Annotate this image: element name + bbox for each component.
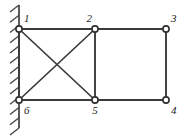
node-label-4: 4 (171, 104, 177, 116)
support-hatch-mark (10, 36, 19, 43)
support-hatch-mark (10, 77, 19, 84)
node-group (16, 26, 169, 103)
frame-canvas: 123456 (0, 0, 191, 140)
node-label-6: 6 (24, 104, 30, 116)
support-hatch-mark (10, 87, 19, 94)
support-hatch-mark (10, 118, 19, 125)
node-3 (163, 26, 169, 32)
node-label-3: 3 (170, 12, 177, 24)
support-hatch-mark (10, 67, 19, 74)
support-hatch-mark (10, 108, 19, 115)
left-wall-support (10, 5, 19, 135)
node-label-5: 5 (92, 104, 98, 116)
member-group (19, 29, 166, 100)
support-hatch-mark (10, 15, 19, 22)
node-6 (16, 97, 22, 103)
node-label-2: 2 (87, 12, 93, 24)
node-1 (16, 26, 22, 32)
support-hatch-mark (10, 128, 19, 135)
support-hatch-mark (10, 56, 19, 63)
node-2 (92, 26, 98, 32)
node-4 (163, 97, 169, 103)
node-5 (92, 97, 98, 103)
support-hatch-mark (10, 46, 19, 53)
structural-frame-diagram: 123456 (0, 0, 191, 140)
node-label-1: 1 (24, 12, 30, 24)
support-hatch-mark (10, 5, 19, 12)
